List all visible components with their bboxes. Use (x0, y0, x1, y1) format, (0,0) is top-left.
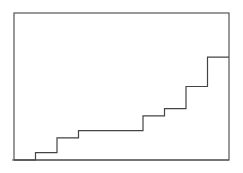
step-chart (0, 0, 243, 173)
step-line (14, 57, 229, 160)
